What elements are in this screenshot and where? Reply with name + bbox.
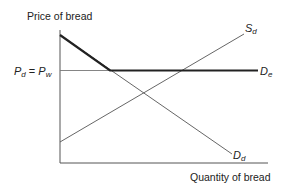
supply-label: Sd [245,22,257,36]
demand-label: Dd [233,149,246,163]
price-label: Pd = Pw [14,65,53,79]
domestic-supply-curve [60,34,244,142]
effective-demand-curve [60,35,258,71]
effective-demand-label: De [260,65,273,79]
x-axis-label: Quantity of bread [190,171,271,183]
chart-canvas: Price of bread Pd = Pw Sd De Dd Quantity… [0,0,285,194]
y-axis-label: Price of bread [27,10,93,22]
